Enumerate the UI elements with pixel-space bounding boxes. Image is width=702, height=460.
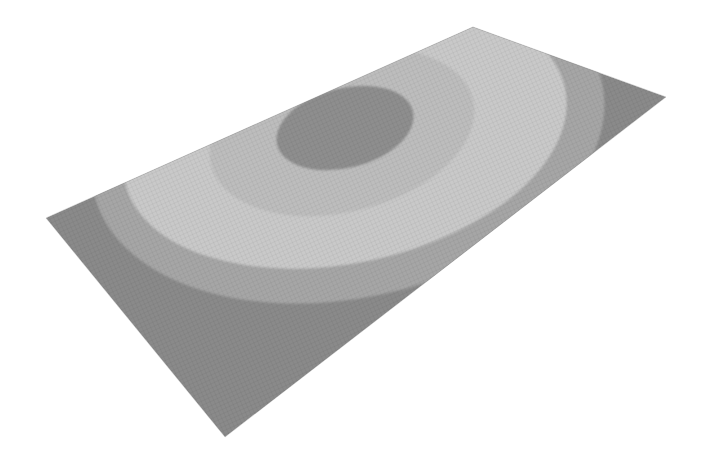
mesh-grid [0, 0, 702, 460]
plate-render [0, 0, 702, 460]
plate [0, 0, 702, 460]
